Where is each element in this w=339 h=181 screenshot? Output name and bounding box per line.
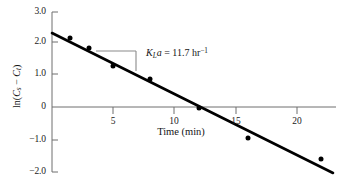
data-point — [148, 77, 153, 82]
y-tick-label-neg1: −1.0 — [4, 134, 46, 144]
data-point — [319, 157, 324, 162]
y-axis-label-prefix: ln( — [11, 97, 22, 108]
data-point — [246, 136, 251, 141]
data-point — [68, 36, 73, 41]
y-axis-label-c1: C — [11, 90, 22, 97]
y-axis-label-sub1: s — [15, 87, 23, 90]
data-point — [197, 106, 202, 111]
y-tick-label-neg2: −2.0 — [4, 166, 46, 176]
slope-triangle-annotation — [96, 51, 136, 71]
kla-unit: hr — [189, 47, 200, 58]
x-tick-label-10: 10 — [164, 116, 184, 126]
kla-unit-exponent: −1 — [200, 47, 208, 55]
data-point — [111, 64, 116, 69]
kla-symbol-k: K — [146, 47, 153, 58]
kla-value: 11.7 — [172, 47, 189, 58]
y-axis-label: ln(Cs − Ct) — [11, 43, 24, 129]
y-axis-label-dash: − — [11, 77, 22, 88]
x-tick-label-15: 15 — [226, 116, 246, 126]
y-tick-label-3: 3.0 — [8, 6, 46, 16]
y-axis-label-suffix: ) — [11, 65, 22, 68]
data-point — [87, 46, 92, 51]
x-tick-label-20: 20 — [287, 116, 307, 126]
x-tick-label-5: 5 — [103, 116, 123, 126]
kla-equals: = — [162, 47, 173, 58]
y-axis-label-sub2: t — [15, 68, 23, 70]
chart-figure: 3.0 2.0 1.0 0 −1.0 −2.0 5 10 15 20 ln(Cs… — [0, 0, 339, 181]
kla-annotation: KLa = 11.7 hr−1 — [146, 47, 208, 60]
x-axis-label: Time (min) — [126, 126, 236, 137]
y-axis-label-c2: C — [11, 70, 22, 77]
chart-plot-area — [0, 0, 339, 181]
